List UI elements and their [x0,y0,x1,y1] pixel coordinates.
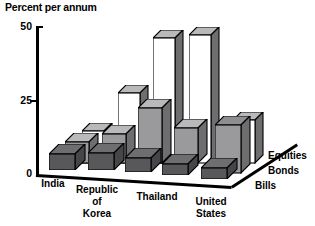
legend-item-bills: Bills [255,180,276,191]
chart-title: Percent per annum [5,2,97,13]
category-label-korea-line1: Republic [66,184,128,195]
bar-shape [125,148,165,172]
legend-item-equities: Equities [268,150,307,161]
bar-india-bills [49,154,75,170]
y-tick-label-0: 0 [8,167,32,179]
bar-shape [201,158,241,179]
y-tick-mark-25 [30,100,37,102]
category-label-thailand: Thailand [126,191,188,202]
category-label-us-line1: United [180,196,242,207]
bar-shape [49,144,89,170]
bar-korea-bills [88,153,114,170]
category-label-korea-line2: of [66,196,128,207]
legend-item-bonds: Bonds [268,165,299,176]
y-tick-mark-50 [36,26,43,28]
chart-container: Percent per annum 50 25 0 [0,0,315,226]
category-label-korea-line3: Korea [66,208,128,219]
bar-us-bills [162,164,188,175]
y-tick-label-50: 50 [8,20,32,32]
bar-thailand-bills [125,158,151,172]
bar-shape [88,143,128,170]
y-tick-label-25: 25 [8,94,32,106]
bar-us-bills-front [201,168,227,179]
bar-shape [162,154,202,175]
category-label-us-line2: States [180,208,242,219]
